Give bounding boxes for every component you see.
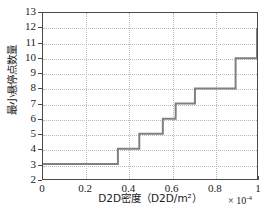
- x-axis-label: D2D密度（D2D/m²）: [42, 192, 258, 204]
- y-tick-label: 7: [14, 98, 36, 109]
- y-tick-mark: [38, 180, 42, 181]
- step-line-series: [43, 13, 257, 179]
- y-tick-label: 13: [14, 6, 36, 17]
- y-tick-label: 10: [14, 52, 36, 63]
- x-multiplier-exponent: -4: [246, 194, 252, 202]
- y-tick-label: 12: [14, 21, 36, 32]
- x-tick-mark: [258, 176, 259, 180]
- plot-area: [42, 12, 258, 180]
- y-tick-label: 5: [14, 128, 36, 139]
- y-tick-label: 9: [14, 67, 36, 78]
- x-axis-multiplier: × 10-4: [228, 193, 252, 206]
- step-line-path: [43, 28, 257, 164]
- y-tick-label: 6: [14, 113, 36, 124]
- chart-figure: 最小悬停点数量 2345678910111213 00.20.40.60.81 …: [0, 0, 269, 213]
- y-tick-label: 11: [14, 37, 36, 48]
- y-tick-label: 3: [14, 159, 36, 170]
- y-tick-label: 4: [14, 143, 36, 154]
- y-tick-label: 8: [14, 82, 36, 93]
